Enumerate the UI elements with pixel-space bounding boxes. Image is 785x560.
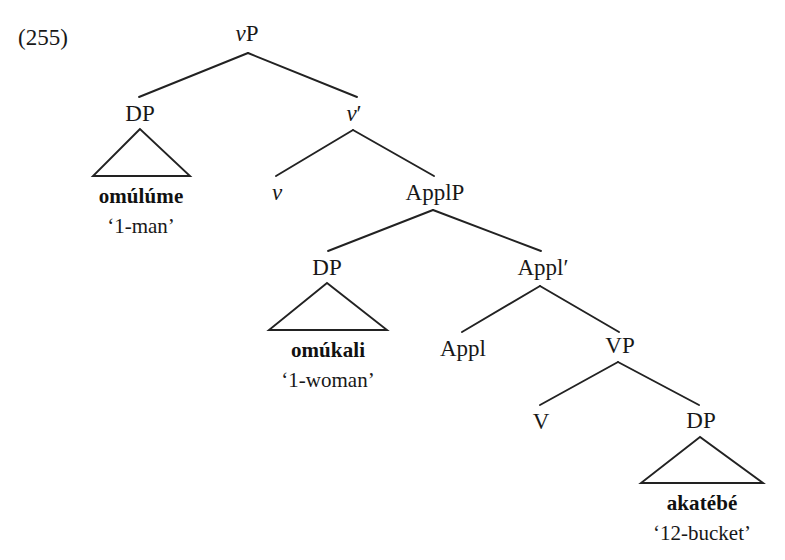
node-label-V: V [533,410,550,433]
node-label-vP: vP [235,22,258,45]
node-label-DP2: DP [312,256,341,279]
branch-vbar-to-v [276,130,353,176]
node-label-Appl: Appl [440,337,486,360]
branch-vbar-to-ApplP [353,130,434,176]
node-label-text: VP [605,333,634,358]
leaf-word-DP1: omúlúme [99,186,184,207]
leaf-gloss-DP3: ‘12-bucket’ [653,523,751,544]
node-label-text: Appl [440,336,486,361]
tree-branch-lines [0,0,785,560]
triangle-DP3 [641,437,763,483]
branch-vP-to-DP1 [139,53,248,97]
leaf-gloss-DP1: ‘1-man’ [107,216,175,237]
leaf-gloss-DP2: ‘1-woman’ [281,370,374,391]
branch-ApplP-to-DP2 [328,210,433,251]
leaf-word-DP2: omúkali [291,340,365,361]
node-label-text: ′ [357,101,362,126]
node-label-text: DP [125,101,154,126]
node-label-v: v [272,181,282,204]
branch-Applbar-to-Appl [462,286,540,332]
node-label-DP3: DP [686,409,715,432]
triangle-DP2 [269,283,387,330]
node-label-Applbar: Appl′ [517,256,568,279]
node-label-text: V [533,409,550,434]
node-label-italic-part: v [346,101,356,126]
node-label-italic-part: v [235,21,245,46]
branch-Applbar-to-VP [540,286,619,332]
node-label-text: P [246,21,259,46]
syntax-tree-figure: (255) vPDPv′vApplPDPAppl′ApplVPVDP omúlú… [0,0,785,560]
branch-VP-to-V [540,362,618,405]
branch-vP-to-vbar [248,53,357,97]
node-label-VP: VP [605,334,634,357]
node-label-text: DP [686,408,715,433]
node-label-DP1: DP [125,102,154,125]
leaf-word-DP3: akatébé [667,493,738,514]
branch-ApplP-to-Applbar [433,210,541,251]
node-label-italic-part: v [272,180,282,205]
triangle-DP1 [93,129,190,176]
node-label-text: Appl′ [517,255,568,280]
node-label-ApplP: ApplP [406,181,465,204]
node-label-text: ApplP [406,180,465,205]
branch-VP-to-DP3 [618,362,699,405]
node-label-vbar: v′ [346,102,361,125]
node-label-text: DP [312,255,341,280]
